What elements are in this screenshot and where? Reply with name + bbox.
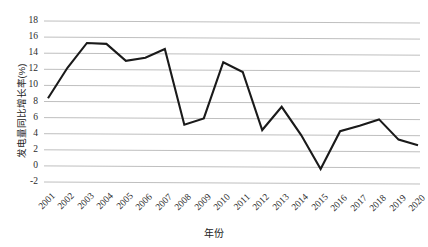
gridline xyxy=(44,118,420,120)
y-axis-tick-label: -2 xyxy=(12,177,38,187)
gridline xyxy=(44,69,420,71)
gridline xyxy=(44,150,420,152)
gridline xyxy=(44,166,420,168)
y-axis-title: 发电量同比增长率(%) xyxy=(14,46,28,176)
y-axis-tick-label: 18 xyxy=(12,16,38,26)
x-axis-title: 年份 xyxy=(0,225,428,240)
line-chart: 181614121086420-2 2001200220032004200520… xyxy=(0,0,428,247)
gridline xyxy=(44,102,420,104)
y-axis-tick-label: 16 xyxy=(12,32,38,42)
gridline xyxy=(44,85,420,87)
gridline xyxy=(44,134,420,136)
gridline xyxy=(44,53,420,55)
gridline xyxy=(44,21,420,23)
gridline xyxy=(44,182,420,184)
gridline xyxy=(44,37,420,39)
